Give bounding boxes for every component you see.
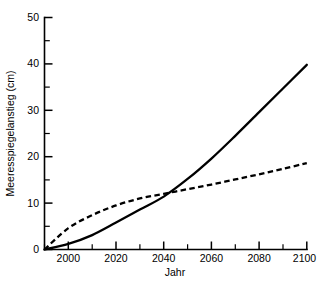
y-tick-label-40: 40 bbox=[27, 57, 39, 69]
y-tick-label-10: 10 bbox=[27, 197, 39, 209]
x-axis-tick-labels: 2000 2020 2040 2060 2080 2100 bbox=[57, 252, 317, 264]
x-tick-label-2040: 2040 bbox=[152, 252, 176, 264]
y-tick-label-20: 20 bbox=[27, 150, 39, 162]
x-axis-title: Jahr bbox=[165, 266, 186, 278]
y-tick-label-50: 50 bbox=[27, 11, 39, 23]
y-tick-label-30: 30 bbox=[27, 104, 39, 116]
y-axis-tick-labels: 0 10 20 30 40 50 bbox=[27, 11, 39, 255]
chart-figure: 0 10 20 30 40 50 2000 2020 2040 2060 208… bbox=[0, 0, 325, 286]
y-axis-title: Meeresspiegelanstieg (cm) bbox=[4, 70, 16, 196]
series-line-dashed-scenario bbox=[45, 163, 307, 249]
x-tick-label-2000: 2000 bbox=[57, 252, 81, 264]
series-line-solid-scenario bbox=[45, 65, 307, 250]
x-tick-label-2080: 2080 bbox=[247, 252, 271, 264]
x-tick-label-2060: 2060 bbox=[200, 252, 224, 264]
x-tick-label-2020: 2020 bbox=[104, 252, 128, 264]
y-tick-label-0: 0 bbox=[33, 243, 39, 255]
x-tick-label-2100: 2100 bbox=[293, 252, 317, 264]
sea-level-rise-line-chart: 0 10 20 30 40 50 2000 2020 2040 2060 208… bbox=[0, 0, 325, 286]
